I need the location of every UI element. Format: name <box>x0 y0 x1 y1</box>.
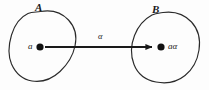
set-a-label: A <box>35 2 42 13</box>
element-a-point <box>36 43 43 50</box>
element-aalpha-point <box>157 43 164 50</box>
set-mapping-figure: A B a aα α <box>0 0 209 90</box>
element-aalpha-label: aα <box>168 42 177 51</box>
element-a-label: a <box>28 42 33 51</box>
mapping-alpha-label: α <box>98 32 102 41</box>
set-b-label: B <box>152 4 159 15</box>
